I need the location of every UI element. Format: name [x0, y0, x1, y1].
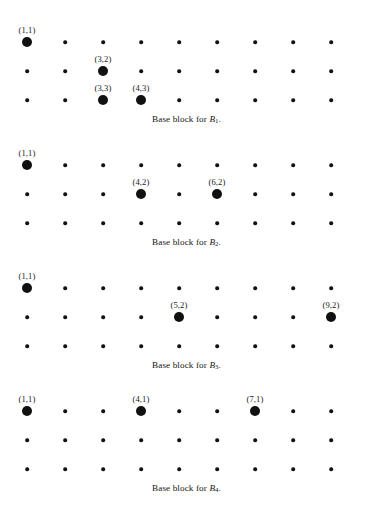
marked-point [326, 312, 336, 322]
base-block: (1,1)(4,2)(6,2) [0, 158, 373, 230]
lattice-point [177, 69, 181, 73]
base-block-figure: (1,1)(3,2)(3,3)(4,3)Base block for B1.(1… [0, 0, 373, 521]
block-caption: Base block for B4. [0, 482, 373, 496]
lattice-point [101, 315, 105, 319]
lattice-point [177, 286, 181, 290]
lattice-point [253, 40, 257, 44]
lattice-point [253, 69, 257, 73]
lattice-point [139, 69, 143, 73]
lattice-point [253, 163, 257, 167]
lattice-point [101, 192, 105, 196]
lattice-point [253, 98, 257, 102]
lattice-point [63, 163, 67, 167]
lattice-point [329, 163, 333, 167]
lattice-point [253, 192, 257, 196]
lattice-point [215, 98, 219, 102]
lattice-point [101, 409, 105, 413]
lattice-point [25, 69, 29, 73]
marked-point [22, 37, 32, 47]
dot-grid: (1,1)(3,2)(3,3)(4,3) [0, 35, 373, 107]
lattice-point [291, 40, 295, 44]
coordinate-label: (6,2) [209, 177, 226, 187]
coordinate-label: (3,2) [95, 54, 112, 64]
lattice-point [253, 221, 257, 225]
lattice-point [177, 438, 181, 442]
lattice-point [177, 221, 181, 225]
lattice-point [139, 286, 143, 290]
lattice-point [215, 69, 219, 73]
lattice-point [139, 163, 143, 167]
lattice-point [139, 438, 143, 442]
lattice-point [329, 467, 333, 471]
caption-prefix: Base block for [152, 360, 209, 370]
marked-point [22, 283, 32, 293]
coordinate-label: (4,2) [133, 177, 150, 187]
lattice-point [25, 344, 29, 348]
lattice-point [291, 344, 295, 348]
marked-point [174, 312, 184, 322]
lattice-point [291, 163, 295, 167]
lattice-point [215, 315, 219, 319]
marked-point [136, 406, 146, 416]
marked-point [136, 189, 146, 199]
coordinate-label: (9,2) [323, 300, 340, 310]
lattice-point [63, 344, 67, 348]
lattice-point [63, 221, 67, 225]
lattice-point [215, 286, 219, 290]
marked-point [136, 95, 146, 105]
lattice-point [177, 344, 181, 348]
lattice-point [25, 192, 29, 196]
caption-suffix: . [219, 237, 221, 247]
caption-suffix: . [219, 360, 221, 370]
coordinate-label: (1,1) [19, 271, 36, 281]
lattice-point [215, 163, 219, 167]
lattice-point [329, 286, 333, 290]
marked-point [98, 66, 108, 76]
lattice-point [101, 221, 105, 225]
lattice-point [25, 221, 29, 225]
lattice-point [101, 467, 105, 471]
lattice-point [25, 315, 29, 319]
lattice-point [291, 221, 295, 225]
lattice-point [63, 98, 67, 102]
lattice-point [177, 163, 181, 167]
lattice-point [215, 40, 219, 44]
lattice-point [291, 192, 295, 196]
coordinate-label: (5,2) [171, 300, 188, 310]
coordinate-label: (1,1) [19, 25, 36, 35]
lattice-point [63, 438, 67, 442]
lattice-point [291, 438, 295, 442]
lattice-point [139, 344, 143, 348]
dot-grid: (1,1)(4,2)(6,2) [0, 158, 373, 230]
lattice-point [215, 344, 219, 348]
lattice-point [139, 315, 143, 319]
lattice-point [101, 40, 105, 44]
block-caption: Base block for B3. [0, 359, 373, 373]
lattice-point [329, 344, 333, 348]
lattice-point [253, 467, 257, 471]
dot-grid: (1,1)(4,1)(7,1) [0, 404, 373, 476]
base-block: (1,1)(5,2)(9,2) [0, 281, 373, 353]
coordinate-label: (4,1) [133, 394, 150, 404]
lattice-point [63, 409, 67, 413]
caption-prefix: Base block for [152, 237, 209, 247]
lattice-point [291, 286, 295, 290]
lattice-point [253, 286, 257, 290]
lattice-point [63, 286, 67, 290]
block-caption: Base block for B2. [0, 236, 373, 250]
lattice-point [329, 221, 333, 225]
lattice-point [215, 467, 219, 471]
lattice-point [25, 98, 29, 102]
lattice-point [101, 286, 105, 290]
lattice-point [177, 98, 181, 102]
block-caption: Base block for B1. [0, 113, 373, 127]
base-block: (1,1)(4,1)(7,1) [0, 404, 373, 476]
lattice-point [101, 438, 105, 442]
coordinate-label: (1,1) [19, 148, 36, 158]
lattice-point [63, 467, 67, 471]
caption-suffix: . [219, 114, 221, 124]
lattice-point [25, 438, 29, 442]
caption-prefix: Base block for [152, 114, 209, 124]
lattice-point [215, 438, 219, 442]
lattice-point [101, 344, 105, 348]
